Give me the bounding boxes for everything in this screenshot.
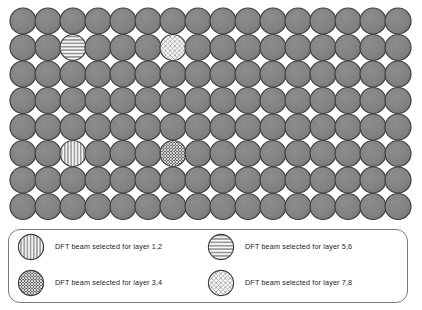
beam-cell	[285, 8, 311, 34]
beam-cell	[85, 88, 111, 114]
beam-cell	[260, 194, 286, 220]
legend-entry-layer-5-6: DFT beam selected for layer 5,6	[207, 233, 352, 261]
beam-cell	[285, 61, 311, 87]
beam-cell	[60, 194, 86, 220]
beam-cell	[235, 141, 261, 167]
beam-cell	[85, 61, 111, 87]
beam-cell	[10, 8, 36, 34]
beam-cell	[35, 114, 61, 140]
beam-cell	[310, 194, 336, 220]
beam-cell	[310, 61, 336, 87]
beam-cell	[135, 141, 161, 167]
beam-cell	[210, 114, 236, 140]
legend-label-layer-5-6: DFT beam selected for layer 5,6	[245, 243, 352, 250]
beam-cell	[310, 88, 336, 114]
legend-label-layer-3-4: DFT beam selected for layer 3,4	[55, 279, 162, 286]
beam-cell	[160, 167, 186, 193]
beam-cell	[35, 194, 61, 220]
beam-cell	[310, 167, 336, 193]
beam-cell	[385, 194, 411, 220]
legend-label-layer-1-2: DFT beam selected for layer 1,2	[55, 243, 162, 250]
beam-cell	[35, 61, 61, 87]
beam-cell	[335, 8, 361, 34]
beam-cell	[360, 114, 386, 140]
legend-swatch-dark-crosshatch	[17, 269, 45, 297]
beam-cell	[110, 61, 136, 87]
beam-cell	[285, 194, 311, 220]
beam-cell	[160, 61, 186, 87]
beam-cell	[235, 88, 261, 114]
beam-cell	[335, 35, 361, 61]
beam-cell	[85, 194, 111, 220]
beam-grid	[0, 0, 422, 228]
beam-cell	[185, 194, 211, 220]
beam-cell	[385, 8, 411, 34]
beam-cell	[360, 35, 386, 61]
beam-cell	[385, 88, 411, 114]
beam-cell	[185, 167, 211, 193]
beam-cell	[110, 167, 136, 193]
beam-cell	[335, 141, 361, 167]
beam-cell	[260, 141, 286, 167]
legend-entry-layer-3-4: DFT beam selected for layer 3,4	[17, 269, 162, 297]
beam-cell	[35, 141, 61, 167]
beam-cell	[60, 88, 86, 114]
legend-swatch-light-crosshatch	[207, 269, 235, 297]
beam-cell	[160, 88, 186, 114]
beam-cell	[135, 8, 161, 34]
beam-cell	[310, 114, 336, 140]
beam-cell	[10, 114, 36, 140]
beam-cell	[85, 167, 111, 193]
beam-cell	[235, 8, 261, 34]
beam-cell	[35, 8, 61, 34]
legend-swatch-vertical-stripes	[17, 233, 45, 261]
beam-cell	[10, 167, 36, 193]
beam-cell	[35, 167, 61, 193]
beam-cell	[60, 114, 86, 140]
beam-cell	[35, 35, 61, 61]
beam-cell	[85, 35, 111, 61]
beam-cell	[10, 88, 36, 114]
legend-box: DFT beam selected for layer 1,2 DFT beam…	[8, 229, 408, 303]
beam-cell	[360, 8, 386, 34]
beam-cell	[360, 141, 386, 167]
beam-cell	[360, 194, 386, 220]
beam-cell-selected-layer-1-2	[60, 141, 86, 167]
beam-cell	[185, 61, 211, 87]
beam-cell	[110, 114, 136, 140]
legend-entry-layer-7-8: DFT beam selected for layer 7,8	[207, 269, 352, 297]
beam-cell	[385, 114, 411, 140]
beam-cell	[285, 35, 311, 61]
beam-cell	[310, 8, 336, 34]
beam-cell	[210, 167, 236, 193]
beam-cell	[335, 114, 361, 140]
beam-cell	[335, 167, 361, 193]
beam-cell	[210, 61, 236, 87]
beam-cell	[260, 167, 286, 193]
beam-cell-selected-layer-5-6	[60, 35, 86, 61]
beam-cell	[85, 141, 111, 167]
beam-cell	[335, 194, 361, 220]
beam-cell	[135, 114, 161, 140]
beam-cell	[285, 114, 311, 140]
beam-cell	[10, 194, 36, 220]
beam-cell	[260, 61, 286, 87]
beam-cell	[85, 114, 111, 140]
beam-cell	[360, 167, 386, 193]
legend-swatch-horizontal-stripes	[207, 233, 235, 261]
beam-cell	[385, 61, 411, 87]
beam-cell	[35, 88, 61, 114]
beam-cell	[210, 141, 236, 167]
beam-cell	[385, 141, 411, 167]
beam-cell	[110, 35, 136, 61]
beam-cell	[135, 194, 161, 220]
beam-cell	[110, 141, 136, 167]
beam-cell	[210, 194, 236, 220]
beam-cell	[135, 167, 161, 193]
beam-cell	[185, 35, 211, 61]
beam-cell	[160, 8, 186, 34]
beam-cell	[235, 114, 261, 140]
beam-cell	[110, 8, 136, 34]
beam-cell	[335, 61, 361, 87]
beam-cell	[310, 141, 336, 167]
